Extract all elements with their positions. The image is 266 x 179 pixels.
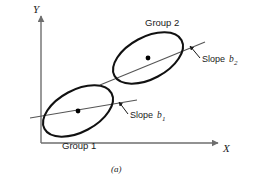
group-1-slope-label: Slope [130, 110, 153, 120]
group-2-center-dot [146, 56, 151, 61]
group-2-slope-pointer [190, 46, 200, 58]
figure-caption: (a) [111, 164, 122, 174]
group-1-label: Group 1 [62, 140, 96, 151]
group-2-slope-word: Slope [202, 54, 225, 64]
group-1-center-dot [76, 109, 81, 114]
axes-group: Y X [33, 3, 231, 154]
group-2-slope-label: Slope [202, 54, 225, 64]
group-1-slope-subscript: 1 [162, 115, 166, 123]
group-1-regression-line [30, 100, 137, 118]
x-axis-label: X [222, 142, 231, 154]
group-2-slope-subscript: 2 [234, 59, 238, 67]
group-1-slope-word: Slope [130, 110, 153, 120]
group-2-label: Group 2 [145, 17, 179, 28]
scatter-ellipse-figure: Y X Group 1 Slope b 1 Group 2 Slope [0, 0, 266, 179]
y-axis-label: Y [33, 3, 41, 15]
group-1-slope-pointer [119, 102, 128, 114]
group-1-cluster: Group 1 Slope b 1 [30, 75, 166, 151]
group-2-cluster: Group 2 Slope b 2 [100, 17, 238, 94]
figure-canvas: Y X Group 1 Slope b 1 Group 2 Slope [0, 0, 266, 179]
